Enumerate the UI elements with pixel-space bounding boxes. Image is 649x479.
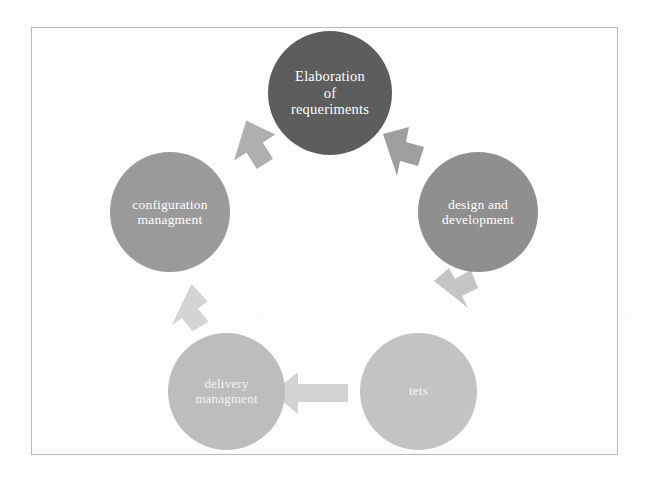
node-label-delivery: delivery managment xyxy=(187,377,265,407)
node-label-tests: tets xyxy=(401,384,436,399)
label-line: of xyxy=(324,85,336,101)
node-label-configuration: configuration managment xyxy=(124,197,215,228)
label-line: Elaboration xyxy=(295,68,365,84)
node-delivery-management[interactable]: delivery managment xyxy=(168,333,285,450)
label-line: design and xyxy=(448,197,508,212)
label-line: managment xyxy=(138,212,203,227)
label-line: delivery xyxy=(204,376,248,391)
node-design-and-development[interactable]: design and development xyxy=(418,152,538,272)
node-elaboration-of-requirements[interactable]: Elaboration of requeriments xyxy=(268,31,392,155)
label-line: development xyxy=(442,212,514,227)
node-configuration-management[interactable]: configuration managment xyxy=(110,152,230,272)
node-tests[interactable]: tets xyxy=(360,333,477,450)
label-line: configuration xyxy=(132,197,207,212)
label-line: managment xyxy=(195,391,257,406)
label-line: requeriments xyxy=(291,101,369,117)
label-line: tets xyxy=(409,383,428,398)
node-label-requirements: Elaboration of requeriments xyxy=(283,68,377,118)
diagram-canvas: Elaboration of requeriments design and d… xyxy=(0,0,649,479)
node-label-design: design and development xyxy=(434,197,522,228)
